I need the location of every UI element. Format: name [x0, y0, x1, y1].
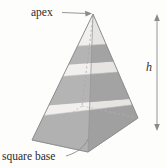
height-label: h — [146, 61, 152, 73]
apex-label: apex — [31, 7, 53, 19]
height-arrow-head-bottom — [154, 124, 160, 131]
apex-arrow — [62, 11, 92, 17]
pyramid-figure: apex square base h — [0, 0, 166, 168]
height-arrow-head-top — [154, 14, 160, 21]
pyramid-drawing — [0, 0, 166, 168]
square-base-label: square base — [2, 151, 55, 163]
height-arrow — [154, 14, 160, 131]
